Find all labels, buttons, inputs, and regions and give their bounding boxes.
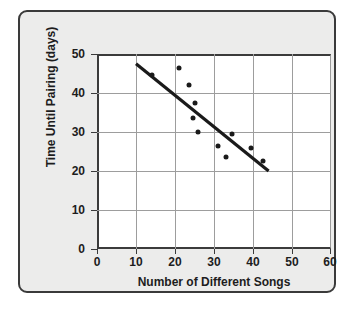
xtick-60 [330,249,331,254]
data-point [223,155,228,160]
xtick-40 [253,249,254,254]
data-point [190,116,195,121]
yticklabel-40: 40 [72,86,85,100]
xticklabel-0: 0 [94,255,101,269]
xtick-20 [175,249,176,254]
xtick-30 [214,249,215,254]
scatter-plot-figure: 0 10 20 30 40 50 60 0 10 20 30 40 50 Num… [0,0,354,316]
y-axis-label: Time Until Pairing (days) [44,2,58,192]
ytick-0 [91,249,97,250]
data-point [260,159,265,164]
xticklabel-40: 40 [246,255,259,269]
xticklabel-60: 60 [323,255,336,269]
xticklabel-30: 30 [207,255,220,269]
yticklabel-0: 0 [78,242,85,256]
yticklabel-30: 30 [72,125,85,139]
data-point [215,143,220,148]
x-axis-label: Number of Different Songs [97,275,331,289]
data-point [149,73,154,78]
data-point [186,83,191,88]
data-point [196,130,201,135]
data-point [249,145,254,150]
xticklabel-20: 20 [168,255,181,269]
yticklabel-50: 50 [72,47,85,61]
trend-line [97,54,331,249]
data-point [192,100,197,105]
data-point [176,65,181,70]
xticklabel-10: 10 [129,255,142,269]
plot-area: 0 10 20 30 40 50 60 0 10 20 30 40 50 [97,54,331,249]
yticklabel-20: 20 [72,164,85,178]
data-point [229,131,234,136]
chart-panel: 0 10 20 30 40 50 60 0 10 20 30 40 50 Num… [18,10,336,293]
xticklabel-50: 50 [285,255,298,269]
xtick-50 [292,249,293,254]
xtick-10 [136,249,137,254]
yticklabel-10: 10 [72,203,85,217]
xtick-0 [97,249,98,254]
